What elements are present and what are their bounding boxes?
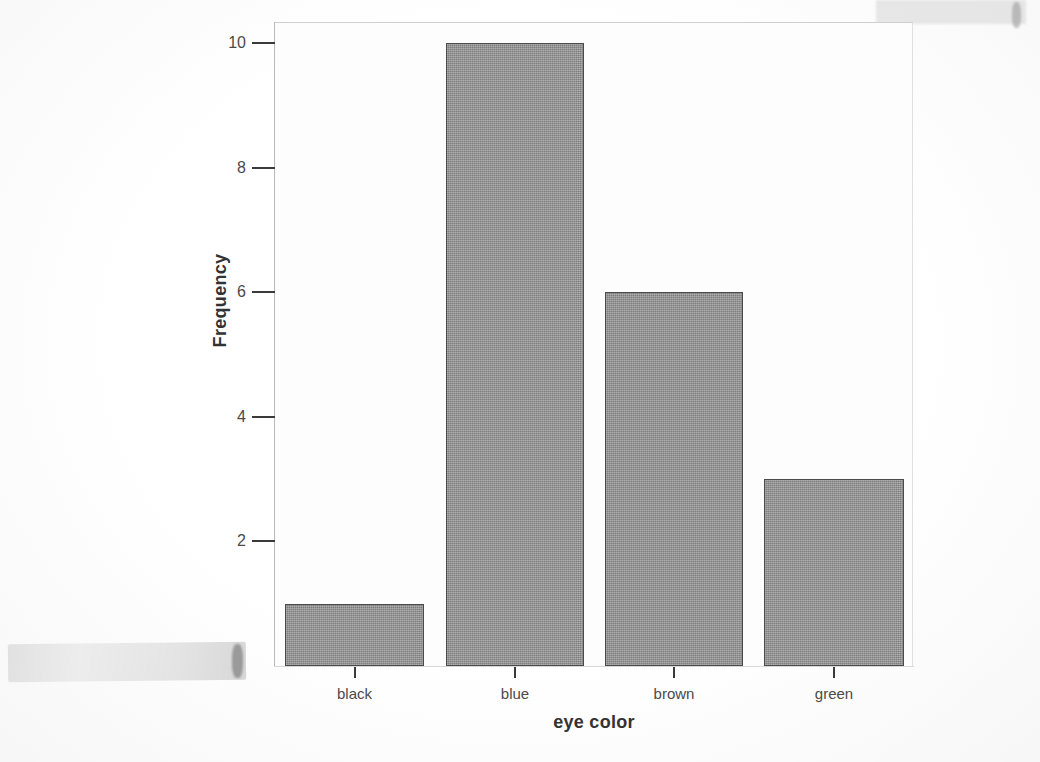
bar-brown [605,292,743,666]
y-axis-title: Frequency [210,231,231,371]
y-tick-mark [252,167,275,169]
y-tick-mark [252,291,275,293]
x-axis-line [274,666,914,667]
y-tick-mark [252,416,275,418]
y-axis-line [274,22,275,667]
x-tick-label: black [285,686,425,701]
x-tick-label: blue [445,686,585,701]
bar-chart-figure: 246810 blackbluebrowngreen eye color Fre… [0,0,1040,762]
y-tick-label: 2 [202,533,246,549]
y-tick-label: 8 [202,160,246,176]
x-tick-mark [354,667,356,678]
bar-blue [446,43,584,666]
x-tick-mark [673,667,675,678]
y-tick-mark [252,540,275,542]
y-tick-label: 10 [202,35,246,51]
x-tick-label: brown [604,686,744,701]
y-tick-mark [252,42,275,44]
x-tick-mark [833,667,835,678]
x-tick-mark [514,667,516,678]
bar-green [764,479,904,666]
x-tick-label: green [764,686,904,701]
x-axis-title: eye color [274,712,914,733]
bar-black [285,604,424,666]
y-tick-label: 4 [202,409,246,425]
